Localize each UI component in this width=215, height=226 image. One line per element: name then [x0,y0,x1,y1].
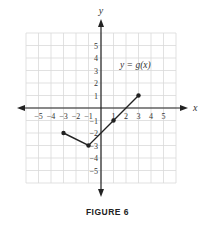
data-point [86,143,90,147]
y-tick-label: −5 [89,167,98,176]
x-tick-label: −3 [59,112,68,121]
x-axis-left-arrow-icon [17,105,25,111]
x-tick-label: −2 [72,112,81,121]
y-tick-label: 3 [94,67,98,76]
data-point [136,93,140,97]
y-axis-down-arrow-icon [98,189,104,197]
y-tick-label: −1 [89,117,98,126]
y-tick-label: 2 [94,79,98,88]
x-tick-label: 2 [124,112,128,121]
x-axis-right-arrow-icon [180,105,188,111]
function-annotation: y = g(x) [119,60,151,71]
y-tick-label: −4 [89,154,98,163]
x-tick-label: 5 [162,112,166,121]
x-axis-label: x [192,102,198,113]
y-axis-up-arrow-icon [98,19,104,27]
figure-caption: FIGURE 6 [0,207,215,217]
y-tick-label: 1 [94,92,98,101]
data-point [111,118,115,122]
x-tick-label: −4 [47,112,56,121]
axis-labels: xyy = g(x) [98,5,198,113]
x-tick-label: 3 [137,112,141,121]
y-tick-label: 4 [94,54,98,63]
x-tick-label: −5 [34,112,43,121]
y-axis-label: y [98,5,104,16]
data-point [61,131,65,135]
y-tick-label: 5 [94,42,98,51]
x-tick-label: 4 [149,112,153,121]
graph-figure: −5−4−3−2−11234554321−1−2−3−4−5 xyy = g(x… [0,0,215,226]
